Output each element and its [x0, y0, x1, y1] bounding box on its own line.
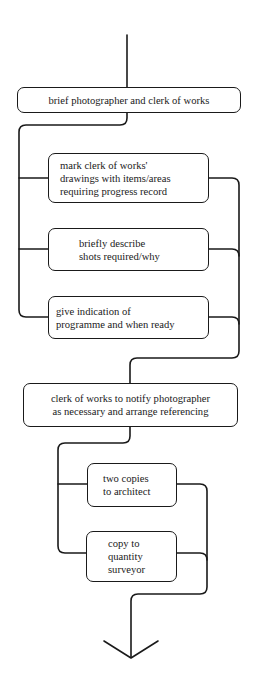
step-text: brief photographer and clerk of works	[49, 94, 210, 107]
right-branch-2	[208, 249, 239, 256]
right-branch-3	[208, 317, 239, 324]
step-text: requiring progress record	[60, 185, 167, 198]
step-copies-architect: two copies to architect	[87, 463, 177, 507]
step-text: briefly describe	[79, 237, 145, 250]
step-text: give indication of	[56, 305, 131, 318]
step-notify: clerk of works to notify photographer as…	[23, 383, 238, 427]
step-text: copy to	[108, 537, 139, 550]
step-describe-shots: briefly describe shots required/why	[48, 228, 209, 271]
right-rail-upper	[130, 178, 239, 383]
step-mark-drawings: mark clerk of works' drawings with items…	[48, 153, 209, 203]
step-text: surveyor	[108, 563, 145, 576]
flowchart: brief photographer and clerk of works ma…	[0, 0, 255, 693]
left-rail-upper	[19, 112, 127, 317]
step-text: as necessary and arrange referencing	[53, 405, 209, 418]
step-programme: give indication of programme and when re…	[48, 296, 209, 339]
step-copy-qs: copy to quantity surveyor	[86, 531, 177, 582]
step-text: clerk of works to notify photographer	[51, 392, 210, 405]
right-branch-5	[176, 553, 207, 560]
step-text: two copies	[103, 472, 149, 485]
step-text: quantity	[108, 550, 143, 563]
step-text: shots required/why	[79, 250, 160, 263]
step-text: programme and when ready	[56, 318, 175, 331]
step-brief: brief photographer and clerk of works	[17, 87, 241, 113]
step-text: drawings with items/areas	[60, 172, 171, 185]
step-text: to architect	[103, 485, 150, 498]
step-text: mark clerk of works'	[60, 159, 148, 172]
